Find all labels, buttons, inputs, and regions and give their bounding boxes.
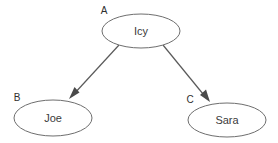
node-a-label: Icy [134, 25, 149, 37]
node-c-group[interactable]: Sara C [186, 94, 266, 137]
node-b-label: Joe [44, 112, 62, 124]
node-c-tag: C [186, 94, 193, 105]
diagram-svg: Icy A Joe B Sara C [0, 0, 278, 143]
node-a-tag: A [101, 5, 108, 16]
node-a-group[interactable]: Icy A [101, 5, 180, 48]
node-b-tag: B [14, 92, 21, 103]
node-c-label: Sara [215, 114, 239, 126]
diagram-canvas: Icy A Joe B Sara C [0, 0, 278, 143]
edge-a-c-line [163, 45, 206, 97]
edge-a-b-group[interactable] [69, 45, 119, 99]
edge-a-b-line [74, 45, 120, 95]
node-b-group[interactable]: Joe B [14, 92, 92, 136]
